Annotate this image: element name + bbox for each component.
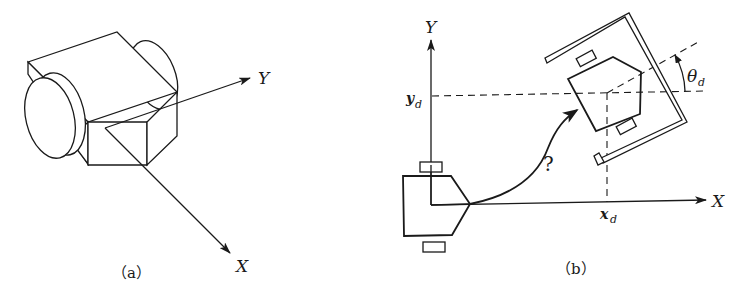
yd-subscript: d xyxy=(415,98,422,111)
theta-label: θ xyxy=(687,66,697,86)
theta-angle-arc xyxy=(675,55,685,91)
goal-wheel-top-icon xyxy=(576,50,596,66)
start-robot-body xyxy=(403,176,470,236)
panel-b: ? Y X y d x d θ d （b） xyxy=(403,13,725,278)
panel-a: Y X （a） xyxy=(17,32,271,282)
x-axis-label-b: X xyxy=(710,191,725,211)
parking-bay-end-cap xyxy=(594,153,604,165)
xd-label: x xyxy=(599,206,609,222)
trajectory-arrow xyxy=(470,110,577,204)
x-axis-label-a: X xyxy=(234,256,249,276)
start-wheel-bottom-icon xyxy=(423,242,445,252)
y-axis-label-a: Y xyxy=(258,68,271,88)
parking-bay-wall xyxy=(545,13,687,163)
xd-subscript: d xyxy=(610,213,617,226)
yd-dashed-line xyxy=(432,91,706,96)
robot-3d-body xyxy=(17,32,187,165)
theta-subscript: d xyxy=(698,76,705,89)
parking-bay xyxy=(545,13,687,165)
start-robot xyxy=(403,162,470,252)
yd-label: y xyxy=(405,90,415,106)
unknown-path-label: ? xyxy=(543,152,554,176)
figure-canvas: Y X （a） ? xyxy=(0,0,736,297)
caption-b: （b） xyxy=(556,260,596,278)
x-axis-a xyxy=(105,128,230,253)
caption-a: （a） xyxy=(112,264,151,282)
goal-wheel-bottom-icon xyxy=(616,118,636,134)
y-axis-label-b: Y xyxy=(425,17,438,37)
robot-front-face xyxy=(88,122,147,165)
